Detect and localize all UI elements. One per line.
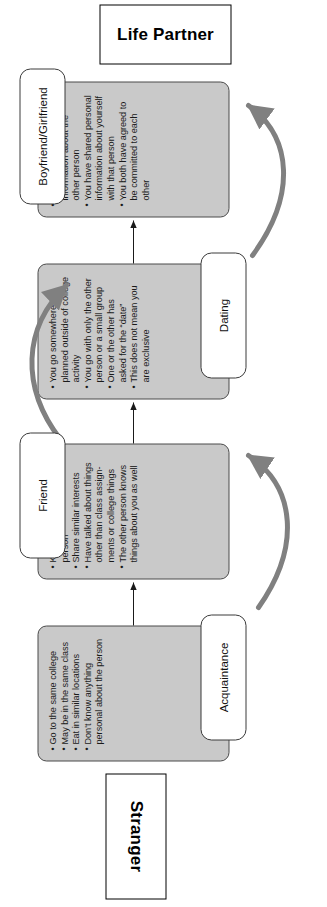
acquaintance-label: Acquaintance [217, 642, 229, 712]
friend-label: Friend [36, 479, 48, 512]
boyfriend-girlfriend-label: Boyfriend/Girlfriend [36, 87, 48, 185]
dating-label: Dating [217, 298, 229, 331]
friend-label-box: Friend [19, 432, 65, 558]
relationship-progression-diagram: Stranger Go to the same college May be i… [0, 0, 327, 907]
acquaintance-label-box: Acquaintance [200, 614, 246, 740]
dating-label-box: Dating [200, 252, 246, 378]
boyfriend-girlfriend-label-box: Boyfriend/Girlfriend [19, 68, 65, 204]
